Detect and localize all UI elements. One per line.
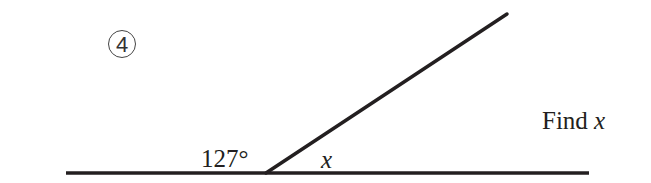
ray-line bbox=[266, 14, 507, 173]
problem-number-badge: 4 bbox=[108, 30, 136, 58]
instruction-verb: Find bbox=[542, 107, 588, 134]
instruction-variable: x bbox=[594, 107, 605, 134]
unknown-angle-label: x bbox=[321, 147, 332, 172]
instruction-text: Find x bbox=[542, 108, 605, 133]
given-angle-label: 127° bbox=[201, 146, 249, 171]
